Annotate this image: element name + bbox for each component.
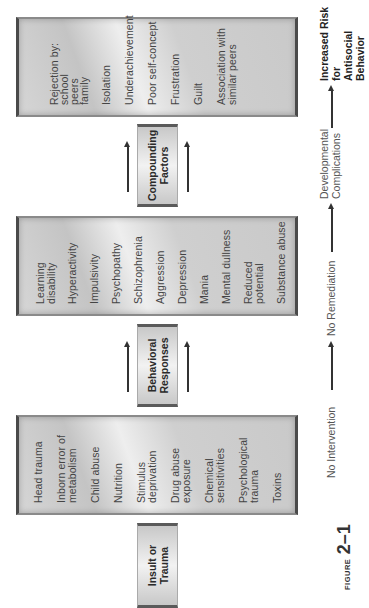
insult-causes-box: Head trauma Inborn error of metabolism C…	[16, 415, 298, 515]
behavioral-responses-box: Learning disability Hyperactivity Impuls…	[16, 216, 298, 316]
stage-title-compounding-factors: Compounding Factors	[137, 124, 178, 207]
list-item: Drug abuse exposure	[170, 417, 192, 503]
list-item: Psychopathy	[111, 218, 122, 304]
list-item: Inborn error of metabolism	[56, 417, 78, 503]
flow-step-no-remediation: No Remediation	[325, 261, 337, 336]
list-item: Depression	[177, 218, 188, 304]
list-item: Child abuse	[90, 417, 101, 503]
arrow-right-icon	[331, 208, 333, 252]
list-item: Hyperactivity	[67, 218, 78, 304]
list-item: Learning disability	[35, 218, 57, 304]
list-item: Underachievement	[124, 19, 135, 105]
list-item: Association with similar peers	[216, 19, 238, 105]
list-item: Aggression	[155, 218, 166, 304]
arrow-right-icon	[331, 346, 333, 390]
list-item: Mania	[199, 218, 210, 304]
flow-step-developmental-complications: Developmental Complications	[318, 129, 342, 199]
list-item: Frustration	[170, 19, 181, 105]
list-item: Poor self-concept	[147, 19, 158, 105]
figure-number: 2–1	[334, 524, 354, 554]
figure-label: FIGURE 2–1	[334, 524, 355, 590]
behavioral-responses-list: Learning disability Hyperactivity Impuls…	[35, 218, 287, 304]
figure-word: FIGURE	[343, 559, 352, 590]
list-item: Schizophrenia	[133, 218, 144, 304]
list-item: Toxins	[272, 417, 283, 503]
compounding-factors-list: Rejection by: school peers family Isolat…	[49, 19, 238, 105]
flow-step-increased-risk: Increased Risk for Antisocial Behavior	[318, 0, 366, 81]
list-item: Substance abuse	[276, 218, 287, 304]
flow-step-no-intervention: No Intervention	[325, 407, 337, 478]
list-item: Head trauma	[33, 417, 44, 503]
arrow-right-icon	[127, 346, 129, 392]
arrow-right-icon	[127, 146, 129, 192]
list-item: Rejection by: school peers family	[49, 19, 89, 105]
list-item: Isolation	[101, 19, 112, 105]
insult-causes-list: Head trauma Inborn error of metabolism C…	[33, 417, 283, 503]
arrow-right-icon	[187, 146, 189, 192]
figure-diagram: Insult or Trauma Behavioral Responses Co…	[0, 0, 369, 608]
list-item: Nutrition	[113, 417, 124, 503]
arrow-right-icon	[187, 346, 189, 392]
list-item: Guilt	[193, 19, 204, 105]
list-item: Reduced potential	[243, 218, 265, 304]
list-item: Impulsivity	[89, 218, 100, 304]
compounding-factors-box: Rejection by: school peers family Isolat…	[16, 17, 298, 117]
list-item: Stimulus deprivation	[136, 417, 158, 503]
list-item: Chemical sensitivities	[204, 417, 226, 503]
list-item: Psychological trauma	[238, 417, 260, 503]
stage-title-insult-or-trauma: Insult or Trauma	[137, 523, 178, 608]
arrow-right-icon	[331, 90, 333, 128]
list-item: Mental dullness	[221, 218, 232, 304]
stage-title-behavioral-responses: Behavioral Responses	[137, 324, 178, 407]
